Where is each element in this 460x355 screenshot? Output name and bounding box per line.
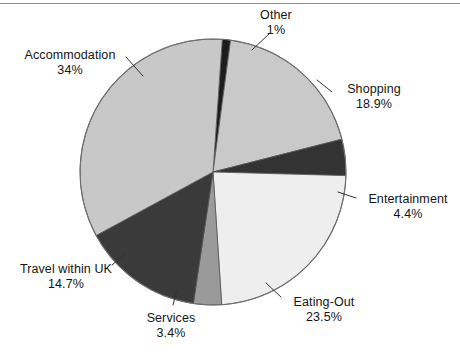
pie-slice-eating-out[interactable] [213, 172, 346, 305]
slice-label-services-value: 3.4% [136, 326, 206, 341]
slice-label-other-name: Other [246, 8, 306, 23]
slice-label-services-name: Services [136, 311, 206, 326]
slice-label-entertainment: Entertainment 4.4% [358, 192, 458, 222]
slice-label-entertainment-name: Entertainment [358, 192, 458, 207]
slice-label-travel-within-uk: Travel within UK 14.7% [12, 262, 120, 292]
slice-label-shopping-name: Shopping [334, 82, 414, 97]
slice-label-other: Other 1% [246, 8, 306, 38]
leader-line-shopping [317, 80, 332, 92]
pie-chart-figure: Accommodation 34% Other 1% Shopping 18.9… [0, 0, 460, 355]
slice-label-accommodation-value: 34% [14, 63, 126, 78]
slice-label-services: Services 3.4% [136, 311, 206, 341]
slice-label-other-value: 1% [246, 23, 306, 38]
slice-label-eating-out-value: 23.5% [283, 310, 365, 325]
slice-label-eating-out: Eating-Out 23.5% [283, 295, 365, 325]
slice-label-entertainment-value: 4.4% [358, 207, 458, 222]
slice-label-accommodation-name: Accommodation [14, 48, 126, 63]
slice-label-travel-within-uk-name: Travel within UK [12, 262, 120, 277]
slice-label-eating-out-name: Eating-Out [283, 295, 365, 310]
slice-label-shopping: Shopping 18.9% [334, 82, 414, 112]
slice-label-accommodation: Accommodation 34% [14, 48, 126, 78]
slice-label-shopping-value: 18.9% [334, 97, 414, 112]
slice-label-travel-within-uk-value: 14.7% [12, 277, 120, 292]
